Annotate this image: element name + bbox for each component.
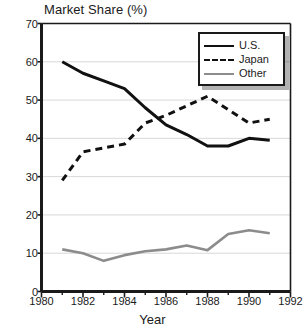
y-tick-label: 50	[14, 94, 38, 106]
legend-label: U.S.	[239, 39, 260, 51]
legend-label: Other	[239, 67, 267, 79]
chart-title: Market Share (%)	[44, 2, 147, 17]
legend-entry: U.S.	[204, 38, 283, 52]
x-tick-label: 1980	[29, 295, 53, 307]
x-tick-label: 1986	[154, 295, 178, 307]
y-tick-label: 60	[14, 56, 38, 68]
x-tick-label: 1988	[195, 295, 219, 307]
y-tick-label: 30	[14, 171, 38, 183]
x-tick-label: 1982	[71, 295, 95, 307]
y-tick-label: 20	[14, 209, 38, 221]
y-tick-label: 70	[14, 18, 38, 30]
legend-line-sample-icon	[204, 67, 234, 79]
x-tick-label: 1992	[278, 295, 302, 307]
series-line-other	[62, 230, 270, 261]
chart-container: Market Share (%) 010203040506070 1980198…	[0, 0, 305, 334]
legend-entry: Other	[204, 66, 283, 80]
x-tick-label: 1990	[237, 295, 261, 307]
x-axis-label: Year	[0, 312, 305, 327]
y-tick-label: 10	[14, 247, 38, 259]
x-tick-label: 1984	[112, 295, 136, 307]
legend-label: Japan	[239, 53, 269, 65]
y-tick-label: 40	[14, 132, 38, 144]
chart-legend: U.S.JapanOther	[198, 32, 285, 86]
legend-line-sample-icon	[204, 53, 234, 65]
legend-entry: Japan	[204, 52, 283, 66]
y-axis-tick-labels: 010203040506070	[8, 0, 38, 334]
legend-line-sample-icon	[204, 39, 234, 51]
